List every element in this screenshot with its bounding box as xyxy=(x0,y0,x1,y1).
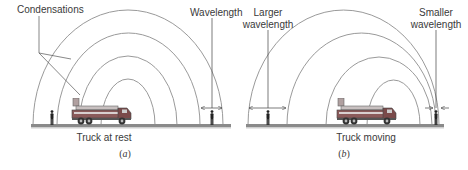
ground-b xyxy=(246,124,444,127)
wavefront-a-1 xyxy=(33,10,223,125)
wavefronts-a xyxy=(33,10,223,125)
condensations-leader xyxy=(39,16,80,95)
listener-left-b xyxy=(267,110,270,125)
fire-truck-b xyxy=(337,98,396,124)
larger-wavelength-label-line1: Larger xyxy=(254,7,283,19)
caption-b: (b) xyxy=(338,148,350,159)
truck-moving-label: Truck moving xyxy=(336,132,396,144)
smaller-wavelength-label-line2: wavelength xyxy=(411,19,462,31)
truck-at-rest-label: Truck at rest xyxy=(76,132,131,144)
caption-a: (a) xyxy=(119,148,131,159)
wavelength-label: Wavelength xyxy=(190,7,242,19)
listener-right-a xyxy=(211,110,214,125)
listener-left-a xyxy=(51,110,54,125)
doppler-diagram xyxy=(0,0,468,170)
ground-a xyxy=(31,124,231,127)
larger-wavelength-indicator xyxy=(249,30,286,108)
larger-wavelength-label-line2: wavelength xyxy=(243,19,294,31)
condensations-label: Condensations xyxy=(17,4,84,16)
smaller-wavelength-indicator xyxy=(425,30,449,108)
smaller-wavelength-label-line1: Smaller xyxy=(419,7,453,19)
wavelength-indicator-a xyxy=(201,18,222,108)
panel-a xyxy=(31,10,231,129)
